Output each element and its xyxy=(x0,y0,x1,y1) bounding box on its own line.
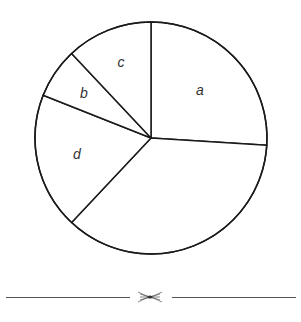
slice-label-d: d xyxy=(73,146,82,162)
pie-chart: a b c d xyxy=(0,0,301,322)
pie-slices xyxy=(35,22,267,254)
slice-label-b: b xyxy=(80,85,88,101)
pie-slice-a xyxy=(151,22,267,145)
slice-label-c: c xyxy=(118,54,125,70)
divider-line-left xyxy=(6,297,130,298)
divider-ornament-icon xyxy=(138,292,162,302)
divider-line-right xyxy=(172,297,296,298)
slice-label-a: a xyxy=(196,82,204,98)
